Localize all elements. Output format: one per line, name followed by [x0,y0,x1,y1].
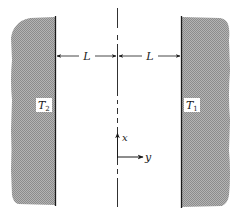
diagram-canvas: L L T2 T1 x y [0,0,241,220]
x-axis-label: x [122,132,128,143]
t1-sub: 1 [193,105,197,113]
dimension-right: L [119,50,180,63]
x-axis: x [118,132,129,158]
left-wall-temperature-label: T2 [36,98,52,113]
dimension-left-label: L [82,50,90,63]
y-axis: y [118,151,153,164]
right-wall-temperature-label: T1 [184,98,200,113]
diagram-svg: L L T2 T1 x y [0,0,241,220]
dimension-left: L [57,50,116,63]
y-axis-label: y [144,151,152,164]
t2-sub: 2 [45,105,49,113]
dimension-right-label: L [145,50,153,63]
